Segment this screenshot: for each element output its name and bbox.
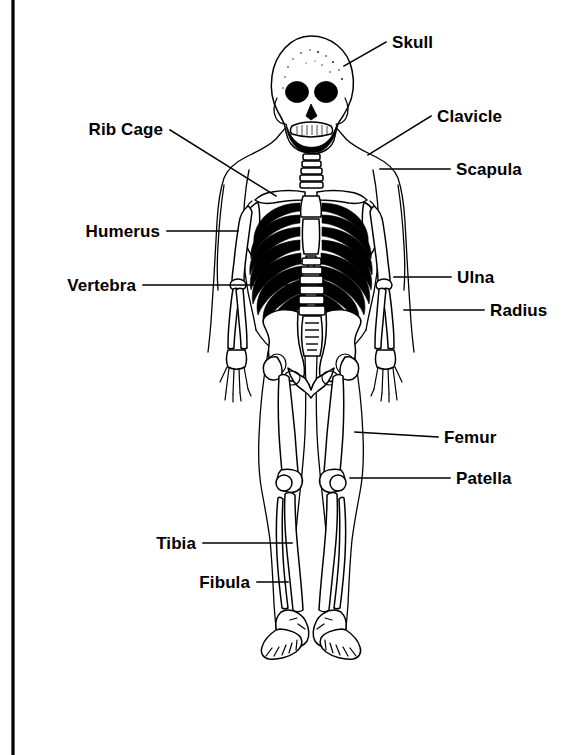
- leader-line-femur: [355, 432, 438, 437]
- right-radius: [375, 288, 386, 348]
- left-clavicle: [255, 191, 305, 204]
- left-eye-socket: [286, 82, 309, 103]
- label-fibula: Fibula: [199, 573, 250, 592]
- pelvis-bones: [263, 310, 361, 398]
- right-tibia: [319, 493, 337, 612]
- label-tibia: Tibia: [156, 534, 196, 553]
- right-arm-bones: [370, 206, 402, 402]
- left-radius: [236, 288, 247, 348]
- left-foot-bones: [261, 610, 308, 659]
- label-patella: Patella: [456, 469, 512, 488]
- right-patella: [330, 475, 346, 491]
- label-clavicle: Clavicle: [437, 107, 502, 126]
- right-clavicle: [317, 191, 367, 204]
- skeleton-diagram-canvas: SkullClavicleScapulaRib CageHumerusVerte…: [0, 0, 588, 755]
- right-femur: [324, 375, 344, 474]
- label-vertebra: Vertebra: [67, 276, 136, 295]
- right-leg-bones: [313, 357, 360, 659]
- leader-line-clavicle: [368, 116, 431, 155]
- pubic-arch: [288, 368, 334, 398]
- left-tibia: [285, 493, 303, 612]
- label-femur: Femur: [444, 428, 497, 447]
- left-arm-bones: [220, 206, 252, 402]
- leader-line-rib-cage: [170, 130, 276, 196]
- label-ulna: Ulna: [457, 268, 495, 287]
- left-hand-bones: [220, 350, 251, 402]
- skeleton-figure: [208, 36, 414, 659]
- right-foot-bones: [313, 610, 360, 659]
- left-leg-bones: [261, 357, 308, 659]
- leader-line-skull: [344, 42, 386, 66]
- label-scapula: Scapula: [456, 160, 522, 179]
- left-femur: [278, 375, 298, 474]
- label-rib-cage: Rib Cage: [89, 120, 163, 139]
- right-hand-bones: [371, 350, 402, 402]
- left-patella: [276, 475, 292, 491]
- label-radius: Radius: [490, 301, 547, 320]
- cervical-spine: [300, 154, 323, 188]
- label-skull: Skull: [392, 33, 433, 52]
- skeleton-diagram-page: SkullClavicleScapulaRib CageHumerusVerte…: [0, 0, 588, 755]
- label-humerus: Humerus: [86, 222, 160, 241]
- right-eye-socket: [315, 82, 338, 103]
- skull-bone: [271, 36, 353, 188]
